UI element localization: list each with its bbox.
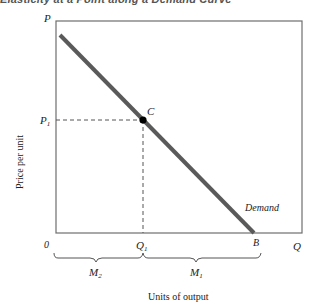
m1-brace: [143, 253, 261, 262]
p1-label: P1: [39, 114, 50, 128]
point-b-label: B: [253, 237, 259, 248]
x-axis-title: Units of output: [148, 291, 209, 302]
demand-curve: [60, 35, 254, 233]
m1-label: M1: [189, 266, 203, 280]
m2-label: M2: [88, 266, 102, 280]
point-c-label: C: [147, 105, 155, 117]
demand-label: Demand: [244, 202, 280, 213]
p-axis-label: P: [43, 12, 51, 24]
m2-brace: [54, 253, 143, 262]
point-c-marker: [139, 116, 146, 123]
origin-label: 0: [44, 239, 49, 250]
demand-chart: P Q 0 P1 Q1 C B Demand M2 M1 Units of ou…: [0, 0, 315, 305]
q1-label: Q1: [136, 239, 147, 253]
y-axis-title: Price per unit: [14, 135, 25, 189]
q-axis-label: Q: [293, 240, 301, 252]
